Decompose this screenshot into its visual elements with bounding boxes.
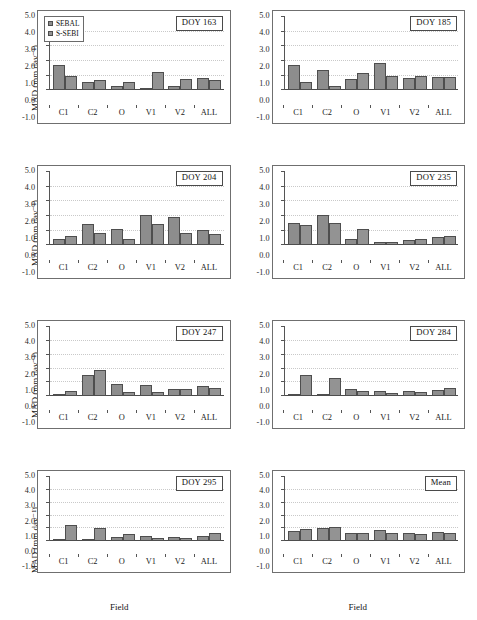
x-tick-label: O (342, 411, 371, 425)
panel-label: Mean (425, 476, 457, 491)
x-tick-label: C2 (78, 261, 107, 275)
y-tick-labels: 5.04.03.02.01.00.0-1.0 (15, 171, 35, 273)
bar-s-sebi-c1 (65, 525, 77, 541)
bar-sebal-v1 (140, 536, 152, 541)
bar-s-sebi-c1 (300, 225, 312, 246)
bar-s-sebi-v2 (180, 79, 192, 91)
y-tick-mark (281, 527, 285, 528)
x-tick-label: O (342, 555, 371, 569)
x-tick-label: O (107, 411, 136, 425)
bar-sebal-o (111, 229, 123, 245)
x-tick-label: V1 (371, 555, 400, 569)
x-tick-label: O (342, 106, 371, 120)
x-tick-labels: C1C2OV1V2ALL (49, 555, 224, 569)
y-tick-label: -1.0 (22, 563, 35, 571)
bar-sebal-c2 (82, 224, 94, 245)
y-tick-label: 2.0 (25, 517, 35, 525)
legend: SEBALS-SEBI (44, 16, 84, 42)
panel-doy-235: 5.04.03.02.01.00.0-1.0C1C2OV1V2ALLDOY 23… (239, 155, 477, 310)
bar-group (314, 17, 343, 90)
bar-s-sebi-c2 (94, 80, 106, 90)
bar-sebal-v1 (140, 215, 152, 246)
y-tick-label: 0.0 (25, 97, 35, 105)
y-tick-label: 3.0 (25, 502, 35, 510)
bar-sebal-c2 (317, 70, 329, 91)
x-tick-labels: C1C2OV1V2ALL (49, 411, 224, 425)
x-tick-label: O (107, 261, 136, 275)
x-tick-labels: C1C2OV1V2ALL (49, 261, 224, 275)
y-tick-label: 4.0 (259, 487, 269, 495)
y-tick-label: 2.0 (259, 370, 269, 378)
y-tick-label: -1.0 (22, 269, 35, 277)
x-tick-label: C2 (78, 106, 107, 120)
panel-doy-295: MAD (mm day⁻¹)5.04.03.02.01.00.0-1.0C1C2… (0, 460, 239, 620)
bar-s-sebi-v2 (180, 389, 192, 397)
bar-sebal-c1 (288, 531, 300, 541)
x-tick-label: C2 (78, 411, 107, 425)
bar-sebal-c1 (288, 223, 300, 245)
y-tick-label: 4.0 (259, 29, 269, 37)
bar-group (137, 327, 166, 396)
bar-sebal-v2 (403, 533, 415, 541)
bar-sebal-all (432, 77, 444, 90)
bar-sebal-v1 (374, 391, 386, 397)
panel-frame: C1C2OV1V2ALLDOY 247 (37, 320, 231, 429)
bar-sebal-v2 (168, 389, 180, 397)
y-tick-labels: 5.04.03.02.01.00.0-1.0 (250, 326, 270, 423)
y-tick-label: 3.0 (25, 201, 35, 209)
x-tick-label: ALL (194, 555, 223, 569)
bar-sebal-c2 (82, 375, 94, 396)
y-tick-label: 4.0 (25, 338, 35, 346)
x-tick-label: O (107, 555, 136, 569)
x-tick-label: V2 (400, 261, 429, 275)
bar-group (137, 17, 166, 90)
x-tick-label: V2 (165, 261, 194, 275)
y-tick-label: 1.0 (25, 235, 35, 243)
y-tick-label: 0.0 (25, 403, 35, 411)
y-tick-label: 2.0 (25, 370, 35, 378)
x-tick-label: ALL (194, 106, 223, 120)
bar-sebal-o (111, 86, 123, 90)
y-tick-mark (281, 368, 285, 369)
bar-s-sebi-c2 (94, 370, 106, 396)
y-tick-labels: 5.04.03.02.01.00.0-1.0 (15, 16, 35, 118)
x-tick-label: V1 (136, 106, 165, 120)
bar-s-sebi-c2 (329, 223, 341, 246)
y-tick-label: 4.0 (259, 184, 269, 192)
bar-sebal-all (432, 390, 444, 396)
bar-s-sebi-o (357, 533, 369, 541)
bar-sebal-v2 (168, 86, 180, 90)
bar-group (80, 327, 109, 396)
panel-doy-247: MAD (mm day⁻¹)5.04.03.02.01.00.0-1.0C1C2… (0, 310, 239, 460)
bar-s-sebi-v1 (386, 76, 398, 90)
x-tick-label: C1 (49, 555, 78, 569)
y-tick-label: 5.0 (259, 167, 269, 175)
y-tick-mark (281, 200, 285, 201)
y-tick-mark (281, 354, 285, 355)
y-tick-mark (46, 368, 50, 369)
legend-entry: SEBAL (48, 19, 79, 29)
y-tick-label: 3.0 (25, 354, 35, 362)
y-tick-labels: 5.04.03.02.01.00.0-1.0 (250, 16, 270, 118)
y-tick-mark (281, 515, 285, 516)
panel-doy-163: MAD (mm day⁻¹)5.04.03.02.01.00.0-1.0C1C2… (0, 0, 239, 155)
x-tick-label: C1 (49, 411, 78, 425)
panel-frame: C1C2OV1V2ALLDOY 284 (272, 320, 466, 429)
y-tick-label: 3.0 (25, 46, 35, 54)
y-tick-mark (281, 60, 285, 61)
bar-s-sebi-c1 (300, 82, 312, 90)
bar-group (51, 172, 80, 245)
bar-sebal-v1 (140, 88, 152, 90)
y-tick-mark (281, 489, 285, 490)
bar-s-sebi-o (357, 391, 369, 397)
x-tick-label: V1 (371, 106, 400, 120)
x-tick-label: ALL (429, 555, 458, 569)
bar-s-sebi-o (123, 534, 135, 541)
panel-label: DOY 284 (410, 326, 457, 341)
bar-s-sebi-all (209, 80, 221, 90)
x-tick-label: V1 (371, 261, 400, 275)
y-tick-mark (46, 45, 50, 46)
panel-doy-204: MAD (mm day⁻¹)5.04.03.02.01.00.0-1.0C1C2… (0, 155, 239, 310)
y-tick-mark (281, 186, 285, 187)
legend-label: S-SEBI (56, 29, 79, 39)
